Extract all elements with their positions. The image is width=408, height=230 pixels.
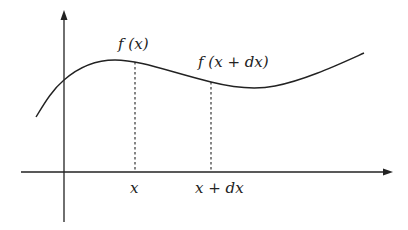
- y-axis-arrow-icon: [61, 10, 68, 20]
- label-f-x-text: f (x): [118, 35, 148, 53]
- tick-label-x-text: x: [130, 179, 138, 197]
- label-f-x-plus-dx-text: f (x + dx): [198, 53, 269, 71]
- x-axis-arrow-icon: [383, 169, 393, 176]
- tick-label-x-plus-dx-text: x + dx: [195, 179, 244, 197]
- diagram-canvas: f (x) f (x + dx) x x + dx: [0, 0, 408, 230]
- label-f-x: f (x): [118, 37, 148, 52]
- tick-label-x-plus-dx: x + dx: [195, 181, 244, 196]
- tick-label-x: x: [130, 181, 138, 196]
- label-f-x-plus-dx: f (x + dx): [198, 55, 269, 70]
